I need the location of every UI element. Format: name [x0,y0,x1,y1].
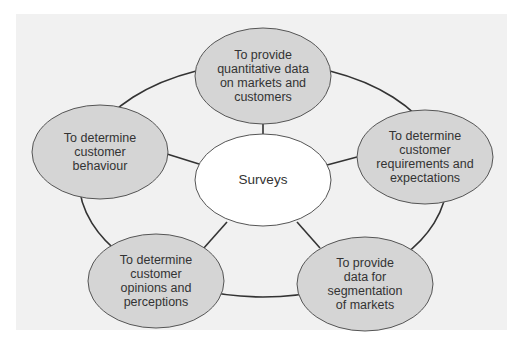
node-bottom-left: To determine customer opinions and perce… [88,234,224,328]
center-node-label: Surveys [239,173,288,187]
node-bottom-right-label: To provide data for segmentation of mark… [327,256,402,312]
node-right: To determine customer requirements and e… [357,110,493,204]
center-node: Surveys [195,134,331,226]
node-bottom-right: To provide data for segmentation of mark… [297,237,433,331]
node-left: To determine customer behaviour [32,105,168,199]
spoke-right [327,157,357,165]
node-top-label: To provide quantitative data on markets … [217,48,309,104]
node-bottom-left-label: To determine customer opinions and perce… [120,253,192,309]
node-right-label: To determine customer requirements and e… [376,129,473,185]
node-top: To provide quantitative data on markets … [195,28,331,124]
node-left-label: To determine customer behaviour [64,131,136,173]
